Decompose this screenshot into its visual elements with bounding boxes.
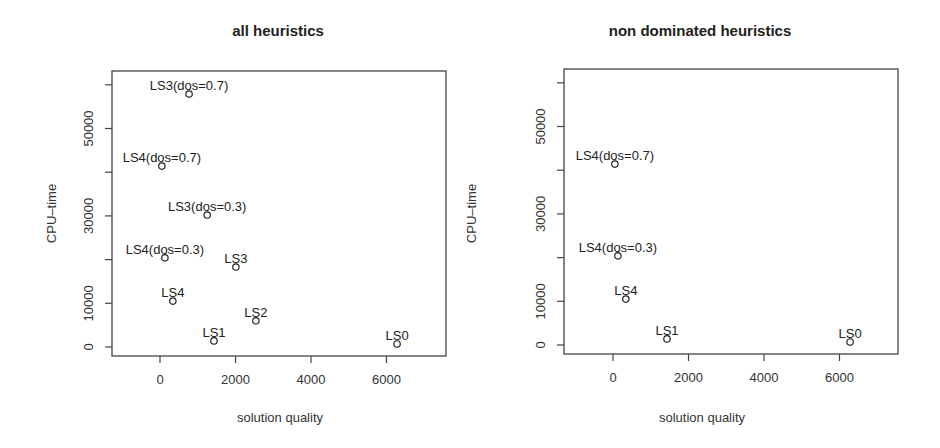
point-label: LS4(dos=0.3) xyxy=(126,242,204,257)
chart-panel-non-dominated-heuristics: non dominated heuristics 020004000600001… xyxy=(470,0,940,448)
x-tick-label: 0 xyxy=(156,372,163,387)
y-tick-label: 50000 xyxy=(81,110,96,146)
y-axis-label: CPU–time xyxy=(464,179,479,249)
x-tick-label: 6000 xyxy=(372,372,401,387)
point-label: LS3 xyxy=(224,251,247,266)
data-point: LS1 xyxy=(655,323,678,342)
point-label: LS4 xyxy=(161,285,184,300)
scatter-plot-all-heuristics: 02000400060000100003000050000LS3(dos=0.7… xyxy=(0,0,470,448)
y-tick-label: 50000 xyxy=(533,108,548,144)
point-label: LS4(dos=0.3) xyxy=(579,240,657,255)
point-label: LS1 xyxy=(655,323,678,338)
x-axis: 0200040006000 xyxy=(156,356,401,387)
data-point: LS4(dos=0.3) xyxy=(126,242,204,261)
data-point: LS0 xyxy=(838,326,861,345)
point-label: LS0 xyxy=(838,326,861,341)
data-point: LS1 xyxy=(202,325,225,344)
data-point: LS3 xyxy=(224,251,247,270)
plot-frame xyxy=(564,69,898,354)
data-point: LS4 xyxy=(614,283,637,302)
point-label: LS3(dos=0.3) xyxy=(168,199,246,214)
scatter-plot-non-dominated-heuristics: 02000400060000100003000050000LS4(dos=0.7… xyxy=(470,0,940,448)
x-tick-label: 6000 xyxy=(825,370,854,385)
x-tick-label: 0 xyxy=(609,370,616,385)
data-point: LS2 xyxy=(244,305,267,324)
y-axis-label: CPU–time xyxy=(44,179,59,249)
data-points: LS3(dos=0.7)LS4(dos=0.7)LS3(dos=0.3)LS4(… xyxy=(123,78,409,347)
x-tick-label: 4000 xyxy=(297,372,326,387)
point-label: LS4(dos=0.7) xyxy=(123,150,201,165)
y-tick-label: 30000 xyxy=(81,198,96,234)
chart-panel-all-heuristics: all heuristics 0200040006000010000300005… xyxy=(0,0,470,448)
y-axis: 0100003000050000 xyxy=(81,85,112,351)
x-axis-label: solution quality xyxy=(200,410,360,425)
y-tick-label: 10000 xyxy=(533,283,548,319)
y-tick-label: 10000 xyxy=(81,285,96,321)
point-label: LS0 xyxy=(385,328,408,343)
x-axis: 0200040006000 xyxy=(609,354,854,385)
data-point: LS4(dos=0.7) xyxy=(576,148,654,167)
point-label: LS4 xyxy=(614,283,637,298)
x-axis-label: solution quality xyxy=(622,410,782,425)
y-tick-label: 0 xyxy=(81,343,96,350)
data-point: LS3(dos=0.3) xyxy=(168,199,246,218)
x-tick-label: 2000 xyxy=(674,370,703,385)
data-points: LS4(dos=0.7)LS4(dos=0.3)LS4LS1LS0 xyxy=(576,148,862,345)
point-label: LS2 xyxy=(244,305,267,320)
x-tick-label: 4000 xyxy=(750,370,779,385)
x-tick-label: 2000 xyxy=(221,372,250,387)
point-label: LS3(dos=0.7) xyxy=(150,78,228,93)
y-tick-label: 30000 xyxy=(533,196,548,232)
point-label: LS4(dos=0.7) xyxy=(576,148,654,163)
data-point: LS4 xyxy=(161,285,184,304)
data-point: LS4(dos=0.3) xyxy=(579,240,657,259)
point-label: LS1 xyxy=(202,325,225,340)
data-point: LS0 xyxy=(385,328,408,347)
y-tick-label: 0 xyxy=(533,341,548,348)
plot-frame xyxy=(112,71,446,356)
data-point: LS3(dos=0.7) xyxy=(150,78,228,97)
y-axis: 0100003000050000 xyxy=(533,83,564,349)
data-point: LS4(dos=0.7) xyxy=(123,150,201,169)
